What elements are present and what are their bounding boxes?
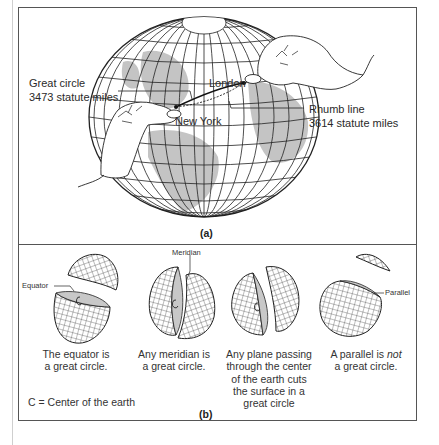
panel-a-label: (a) [200,227,213,239]
rhumb-line-distance: 3614 statute miles [309,117,398,129]
meridian-sphere-icon [149,255,215,339]
parallel-sphere-icon [320,254,390,336]
oblique-plane-sphere-icon [232,267,299,335]
center-legend: C = Center of the earth [28,396,135,408]
caption-parallel: A parallel is not a great circle. [318,348,414,373]
new-york-marker [174,105,178,109]
scan-edge-line [12,0,13,445]
panel-b-label: (b) [199,408,212,420]
parallel-callout: Parallel [385,289,410,297]
city-label-new-york: New York [175,115,221,127]
equator-sphere-icon [54,254,118,343]
sphere-illustrations [18,245,417,421]
great-circle-label: Great circle [29,77,85,89]
equator-callout: Equator [22,282,48,290]
meridian-callout: Meridian [172,249,201,257]
rhumb-line-label: Rhumb line [309,103,365,115]
caption-any-plane: Any plane passing through the center of … [221,348,317,409]
caption-meridian: Any meridian is a great circle. [126,348,222,373]
city-label-london: London [209,77,246,89]
panel-b-great-circle-examples: Equator Meridian Parallel The equator is… [18,245,417,421]
great-circle-distance: 3473 statute miles [29,91,118,103]
caption-equator: The equator is a great circle. [28,348,124,373]
panel-a-globe-with-hands: Great circle 3473 statute miles London N… [18,7,417,244]
